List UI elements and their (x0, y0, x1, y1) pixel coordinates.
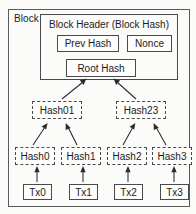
tx0-node: Tx0 (23, 184, 52, 200)
root-hash-node: Root Hash (66, 59, 136, 77)
hash3-node: Hash3 (152, 147, 192, 165)
merkle-tree-block-diagram: Block Block Header (Block Hash) Prev Has… (0, 0, 196, 214)
hash01-node: Hash01 (32, 101, 82, 119)
tx1-node: Tx1 (69, 184, 98, 200)
hash0-node: Hash0 (15, 147, 55, 165)
block-header-title: Block Header (Block Hash) (40, 17, 178, 31)
hash2-node: Hash2 (107, 147, 147, 165)
nonce-node: Nonce (127, 35, 172, 52)
tx2-node: Tx2 (114, 184, 143, 200)
hash23-node: Hash23 (116, 101, 166, 119)
tx3-node: Tx3 (160, 184, 189, 200)
hash1-node: Hash1 (61, 147, 101, 165)
prev-hash-node: Prev Hash (57, 35, 119, 52)
block-label: Block (14, 13, 39, 24)
